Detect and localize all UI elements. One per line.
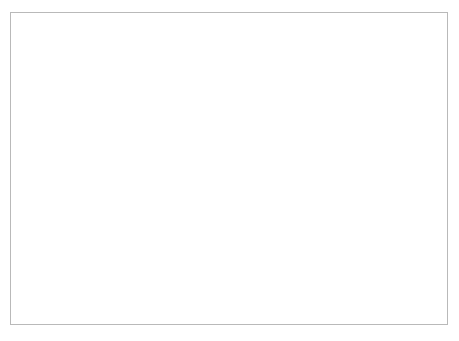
chart-container: 05001,0001,5002,0002,5003,0003,500(g or …: [0, 0, 459, 341]
chart-border: [10, 12, 448, 325]
